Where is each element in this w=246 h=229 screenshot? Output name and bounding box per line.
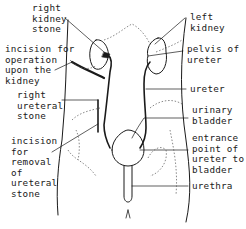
urethra — [124, 166, 132, 202]
label-left-kidney: left kidney — [190, 12, 225, 33]
urinary-system-diagram: right kidney stone incision for operatio… — [0, 0, 246, 229]
label-incision-ureteral: incision for removal of ureteral stone — [11, 136, 57, 199]
label-right-kidney-stone: right kidney stone — [32, 3, 67, 35]
label-urinary-bladder: urinary bladder — [192, 105, 233, 126]
label-right-ureteral-stone: right ureteral stone — [17, 90, 63, 122]
left-ureter — [140, 62, 150, 148]
kidney-incision — [72, 62, 104, 78]
right-ureter — [104, 55, 111, 148]
label-urethra: urethra — [192, 181, 233, 192]
label-entrance-point: entrance point of ureter to bladder — [192, 133, 244, 175]
label-pelvis-of-ureter: pelvis of ureter — [187, 44, 239, 65]
label-incision-kidney: incision for operation upon the kidney — [5, 44, 75, 86]
label-ureter: ureter — [190, 84, 225, 95]
